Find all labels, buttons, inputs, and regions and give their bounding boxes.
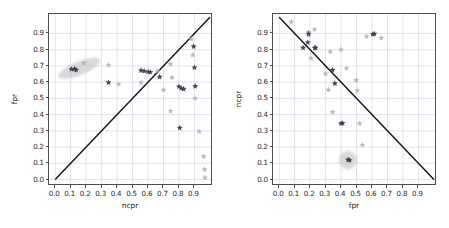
y-tick-label: 0.0 [27, 174, 44, 183]
x-tickmark [402, 185, 403, 188]
x-tickmark [325, 185, 326, 188]
data-point [288, 19, 294, 25]
x-tick-label: 0.1 [64, 189, 75, 198]
plot-graphics-left [49, 14, 212, 185]
data-point [201, 153, 207, 159]
x-tick-label: 0.7 [381, 189, 392, 198]
data-point [192, 83, 198, 89]
y-tickmark [46, 114, 49, 115]
x-tick-label: 0.3 [319, 189, 330, 198]
x-tick-label: 0.2 [304, 189, 315, 198]
x-tickmark [193, 185, 194, 188]
x-tick-label: 0.9 [412, 189, 423, 198]
y-axis-title-right: ncpr [234, 91, 243, 107]
x-tickmark [85, 185, 86, 188]
y-tick-label: 0.3 [251, 125, 268, 134]
x-tickmark [356, 185, 357, 188]
x-tickmark [70, 185, 71, 188]
y-tickmark [270, 179, 273, 180]
x-tick-label: 0.6 [142, 189, 153, 198]
y-tickmark [270, 162, 273, 163]
x-tick-label: 0.7 [157, 189, 168, 198]
x-tickmark [147, 185, 148, 188]
plot-area-left [48, 13, 212, 185]
x-tickmark [309, 185, 310, 188]
x-tick-label: 0.6 [366, 189, 377, 198]
data-point [308, 55, 314, 61]
data-point [106, 79, 112, 85]
x-tickmark [340, 185, 341, 188]
plot-area-right [272, 13, 436, 185]
data-point [138, 79, 144, 85]
ellipse-region [56, 54, 103, 83]
x-tickmark [371, 185, 372, 188]
data-point [332, 80, 338, 86]
y-tick-label: 0.3 [27, 125, 44, 134]
data-point [357, 120, 363, 126]
x-tickmark [386, 185, 387, 188]
y-tickmark [46, 65, 49, 66]
x-tick-label: 0.9 [188, 189, 199, 198]
series-light-markers [81, 36, 208, 180]
data-point [168, 108, 174, 114]
y-tick-label: 0.5 [251, 93, 268, 102]
x-tick-label: 0.5 [126, 189, 137, 198]
y-tickmark [270, 130, 273, 131]
y-tickmark [270, 65, 273, 66]
data-point [157, 74, 163, 80]
data-point [141, 68, 147, 74]
x-tickmark [178, 185, 179, 188]
y-tickmark [46, 146, 49, 147]
x-axis-title-right: fpr [349, 201, 359, 210]
y-tickmark [46, 179, 49, 180]
data-point [196, 129, 202, 135]
x-tick-label: 0.0 [49, 189, 60, 198]
data-point [191, 43, 197, 49]
y-tick-label: 0.1 [251, 158, 268, 167]
y-tickmark [270, 146, 273, 147]
x-tickmark [132, 185, 133, 188]
y-tickmark [270, 97, 273, 98]
y-tick-label: 0.7 [27, 60, 44, 69]
data-point [325, 87, 331, 93]
x-tick-label: 0.3 [95, 189, 106, 198]
x-tickmark [54, 185, 55, 188]
y-tick-label: 0.6 [27, 77, 44, 86]
y-axis-title-left: fpr [10, 94, 19, 104]
y-tick-label: 0.8 [27, 44, 44, 53]
x-tick-label: 0.2 [80, 189, 91, 198]
x-tick-label: 0.4 [111, 189, 122, 198]
x-axis-title-left: ncpr [122, 201, 138, 210]
y-tick-label: 0.1 [27, 158, 44, 167]
x-tickmark [162, 185, 163, 188]
y-tick-label: 0.6 [251, 77, 268, 86]
y-tickmark [46, 130, 49, 131]
chart-panel-right: 0.00.10.20.30.40.50.60.70.80.90.00.10.20… [224, 0, 449, 228]
data-point [312, 26, 318, 32]
data-point [169, 75, 175, 81]
x-tickmark [294, 185, 295, 188]
data-point [330, 109, 336, 115]
y-tick-label: 0.2 [27, 142, 44, 151]
y-tickmark [46, 162, 49, 163]
y-tick-label: 0.9 [27, 28, 44, 37]
y-tickmark [46, 97, 49, 98]
y-tick-label: 0.7 [251, 60, 268, 69]
y-tickmark [270, 81, 273, 82]
x-tick-label: 0.5 [350, 189, 361, 198]
x-tick-label: 0.4 [335, 189, 346, 198]
y-tick-label: 0.4 [251, 109, 268, 118]
y-tickmark [46, 81, 49, 82]
x-tick-label: 0.0 [273, 189, 284, 198]
y-tickmark [270, 114, 273, 115]
data-point [177, 125, 183, 131]
x-tickmark [417, 185, 418, 188]
x-tickmark [278, 185, 279, 188]
y-tick-label: 0.8 [251, 44, 268, 53]
data-point [106, 62, 112, 68]
data-point [364, 33, 370, 39]
y-tick-label: 0.9 [251, 28, 268, 37]
y-tickmark [46, 32, 49, 33]
plot-graphics-right [273, 14, 436, 185]
y-tick-label: 0.2 [251, 142, 268, 151]
